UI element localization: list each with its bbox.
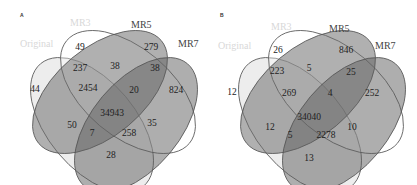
set-label-mr3: MR3	[271, 21, 292, 32]
venn-panel-a: A Original MR3 MR5 MR7 44 49 279 824 237…	[0, 0, 208, 185]
region-original-mr5-mr7: 5	[288, 130, 293, 140]
set-label-mr7: MR7	[178, 38, 199, 49]
venn-panel-b: B Original MR3 MR5 MR7 12 26 846 252 223…	[208, 0, 416, 185]
region-original-mr5-mr7: 7	[90, 128, 95, 138]
region-mr3-mr7: 10	[347, 122, 357, 132]
region-mr3-mr5: 5	[307, 63, 312, 73]
region-original-mr3-mr7: 258	[122, 128, 136, 138]
region-original-mr3-mr7: 2278	[317, 130, 336, 140]
panel-letter: B	[220, 12, 224, 18]
region-original-mr5: 13	[304, 153, 314, 163]
region-original-only: 44	[30, 84, 40, 94]
region-mr5-only: 279	[144, 42, 158, 52]
region-mr3-mr7: 35	[147, 118, 157, 128]
region-original-mr3-mr5: 2454	[79, 83, 98, 93]
region-all: 34040	[297, 112, 321, 122]
region-original-only: 12	[227, 87, 237, 97]
set-label-mr5: MR5	[329, 23, 350, 34]
region-original-mr7: 12	[265, 122, 275, 132]
region-original-mr5: 28	[106, 150, 116, 160]
region-original-mr3-mr5: 269	[282, 88, 296, 98]
region-original-mr7: 50	[67, 120, 77, 130]
region-mr7-only: 824	[169, 85, 183, 95]
region-original-mr3: 237	[73, 63, 87, 73]
set-label-original: Original	[20, 38, 53, 49]
region-mr3-mr5-mr7: 20	[129, 85, 139, 95]
region-original-mr3: 223	[270, 66, 284, 76]
region-mr5-mr7: 38	[150, 63, 160, 73]
region-mr3-mr5-mr7: 4	[328, 88, 333, 98]
set-label-mr3: MR3	[70, 17, 91, 28]
region-mr3-only: 26	[273, 45, 283, 55]
panel-letter: A	[20, 12, 24, 18]
region-all: 34943	[100, 108, 124, 118]
set-label-mr5: MR5	[131, 19, 152, 30]
region-mr5-only: 846	[339, 45, 353, 55]
region-mr7-only: 252	[365, 88, 379, 98]
region-mr5-mr7: 25	[346, 67, 356, 77]
region-mr3-mr5: 38	[110, 61, 120, 71]
set-label-mr7: MR7	[375, 40, 396, 51]
region-mr3-only: 49	[75, 42, 85, 52]
set-label-original: Original	[218, 40, 251, 51]
